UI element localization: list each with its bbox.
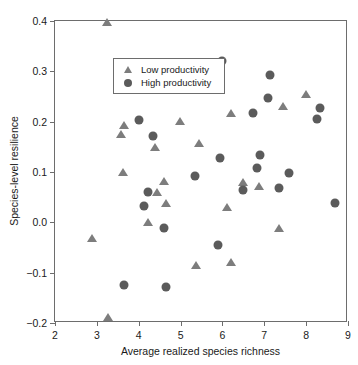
data-point-circle [316, 103, 325, 112]
scatter-plot-figure: 0.40.30.20.10.0−0.1−0.2 23456789 Low pro… [0, 0, 358, 365]
data-point-circle [313, 115, 322, 124]
data-point-triangle [226, 258, 236, 266]
data-point-triangle [143, 218, 153, 226]
x-tick-label: 2 [52, 329, 58, 341]
circle-marker-icon [120, 79, 136, 87]
y-tick-label: 0.0 [32, 216, 47, 228]
x-tick-mark [181, 321, 182, 326]
y-tick-label: 0.1 [32, 166, 47, 178]
data-point-triangle [274, 224, 284, 232]
data-point-circle [135, 116, 144, 125]
data-point-circle [238, 185, 247, 194]
data-point-triangle [175, 117, 185, 125]
data-point-circle [253, 163, 262, 172]
x-tick-label: 9 [345, 329, 351, 341]
x-tick-label: 4 [136, 329, 142, 341]
x-tick-mark [139, 321, 140, 326]
data-point-triangle [152, 188, 162, 196]
x-tick-label: 7 [261, 329, 267, 341]
data-point-triangle [119, 121, 129, 129]
legend-item-low-productivity: Low productivity [120, 63, 218, 76]
data-point-circle [216, 154, 225, 163]
data-point-circle [256, 150, 265, 159]
data-point-triangle [116, 130, 126, 138]
data-point-triangle [278, 102, 288, 110]
y-tick-label: −0.1 [26, 267, 47, 279]
data-point-circle [285, 169, 294, 178]
x-tick-mark [306, 321, 307, 326]
data-point-triangle [226, 109, 236, 117]
data-point-triangle [102, 18, 112, 26]
x-tick-label: 3 [94, 329, 100, 341]
x-tick-mark [264, 321, 265, 326]
data-point-triangle [87, 234, 97, 242]
chart-legend: Low productivity High productivity [113, 58, 225, 94]
data-point-circle [330, 199, 339, 208]
data-point-triangle [301, 90, 311, 98]
x-tick-label: 8 [303, 329, 309, 341]
data-point-circle [148, 131, 157, 140]
data-point-circle [248, 109, 257, 118]
x-tick-mark [55, 321, 56, 326]
x-tick-label: 5 [178, 329, 184, 341]
data-point-circle [214, 240, 223, 249]
data-point-triangle [194, 139, 204, 147]
data-point-triangle [118, 168, 128, 176]
data-point-triangle [254, 182, 264, 190]
y-tick-label: −0.2 [26, 317, 47, 329]
data-point-circle [275, 184, 284, 193]
y-axis-title: Species-level resilience [8, 91, 20, 251]
data-point-triangle [161, 199, 171, 207]
y-tick-label: 0.4 [32, 15, 47, 27]
data-point-circle [266, 71, 275, 80]
data-point-triangle [191, 261, 201, 269]
legend-label-low-productivity: Low productivity [141, 64, 209, 75]
legend-label-high-productivity: High productivity [141, 77, 211, 88]
data-point-triangle [159, 177, 169, 185]
x-tick-label: 6 [220, 329, 226, 341]
x-axis-title: Average realized species richness [54, 345, 347, 357]
triangle-marker-icon [120, 66, 136, 73]
data-point-circle [120, 281, 129, 290]
data-point-circle [159, 224, 168, 233]
data-point-circle [191, 171, 200, 180]
x-tick-mark [222, 321, 223, 326]
x-tick-mark [348, 321, 349, 326]
x-tick-mark [97, 321, 98, 326]
data-point-circle [140, 201, 149, 210]
data-point-triangle [103, 313, 113, 321]
y-tick-label: 0.3 [32, 65, 47, 77]
legend-item-high-productivity: High productivity [120, 76, 218, 89]
data-point-triangle [150, 143, 160, 151]
data-point-circle [161, 283, 170, 292]
data-point-circle [143, 188, 152, 197]
plot-area: 0.40.30.20.10.0−0.1−0.2 23456789 Low pro… [54, 20, 347, 322]
data-point-circle [263, 94, 272, 103]
y-tick-label: 0.2 [32, 116, 47, 128]
data-point-triangle [222, 203, 232, 211]
